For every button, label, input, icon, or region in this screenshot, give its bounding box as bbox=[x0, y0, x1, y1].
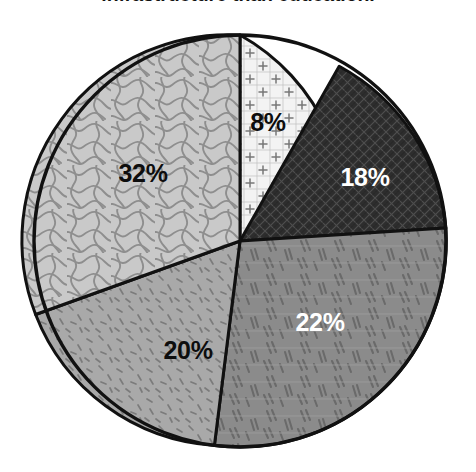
chart-page: infrastructure than education. bbox=[0, 0, 476, 472]
pie-slices bbox=[22, 35, 446, 447]
pie-chart: 8% 18% 22% 20% 32% bbox=[23, 33, 439, 449]
chart-title: infrastructure than education. bbox=[0, 0, 476, 5]
pie-label-8: 8% bbox=[250, 108, 286, 136]
pie-slice-22[interactable] bbox=[214, 228, 446, 447]
pie-label-18: 18% bbox=[340, 163, 389, 191]
pie-label-20: 20% bbox=[163, 336, 212, 364]
pie-label-32: 32% bbox=[118, 159, 167, 187]
pie-chart-svg: 8% 18% 22% 20% 32% bbox=[23, 33, 439, 449]
pie-label-22: 22% bbox=[295, 308, 344, 336]
